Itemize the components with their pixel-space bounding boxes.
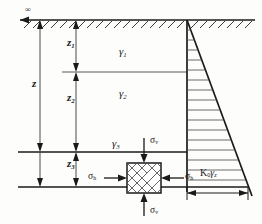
ground-surface-arrowhead <box>20 17 29 24</box>
ground-hatch <box>24 21 252 28</box>
sigma-h-right-head <box>161 175 170 182</box>
sigma-h-left-head <box>118 175 127 182</box>
sigma-h-left-arrow <box>104 175 127 182</box>
unit-weight-layer2-label: γ2 <box>119 88 127 100</box>
depth-z1-label: z1 <box>67 37 75 49</box>
depth-z1-arrow-top <box>73 20 79 29</box>
sigma-v-bottom-label: σv <box>150 206 158 216</box>
depth-z2-arrow-bottom <box>73 143 79 152</box>
depth-z3-label: z3 <box>67 158 75 170</box>
infinity-symbol: ∞ <box>25 6 30 14</box>
depth-total-arrow-bottom <box>37 143 43 152</box>
k0-dimension-arrow-left <box>187 190 196 196</box>
depth-total-arrow-top <box>37 20 43 29</box>
sigma-v-bottom-head <box>141 193 148 202</box>
ground-surface-group <box>20 17 255 29</box>
sigma-v-bottom-arrow <box>141 193 148 216</box>
sigma-v-top-head <box>141 154 148 163</box>
sigma-v-top-label: σv <box>150 136 158 146</box>
depth-z2-arrow-top <box>73 72 79 81</box>
depth-z2-dimension <box>73 72 79 152</box>
unit-weight-layer1-label: γ1 <box>119 46 127 58</box>
figure-canvas: ∞ z z1 z2 z3 γ1 γ2 γ3 σv σv σh σh K0γz <box>0 0 262 224</box>
diagram-svg <box>0 0 262 224</box>
k0-dimension-arrow-right <box>239 190 248 196</box>
sigma-v-top-arrow <box>141 138 148 163</box>
depth-z3-arrow-bottom <box>73 178 79 187</box>
pressure-diagram-hatch <box>187 30 252 180</box>
k0-gamma-z-label: K0γz <box>200 168 217 179</box>
depth-z2-label: z2 <box>67 92 75 104</box>
pressure-diagram-group <box>187 20 252 196</box>
depth-total-leader <box>37 152 43 187</box>
sigma-h-right-arrow <box>161 175 184 182</box>
sigma-h-right-label: σh <box>185 172 193 182</box>
sigma-h-left-label: σh <box>88 172 96 182</box>
layer-boundaries-group <box>18 72 187 152</box>
depth-total-leader-arrow <box>37 178 43 187</box>
depth-z1-arrow-bottom <box>73 63 79 72</box>
depth-total-dimension <box>37 20 43 152</box>
unit-weight-layer3-label: γ3 <box>112 138 120 150</box>
k0-dimension-group <box>187 187 248 200</box>
depth-total-label: z <box>32 78 36 89</box>
